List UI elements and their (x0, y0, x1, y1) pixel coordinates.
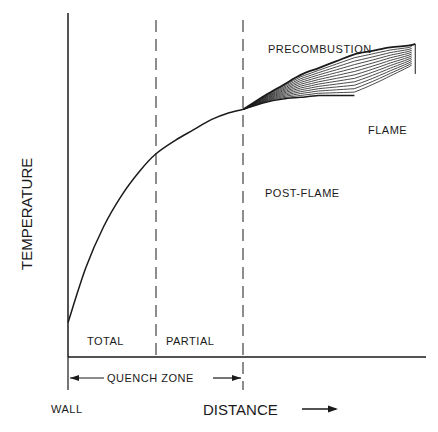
quench-zone-diagram: PRECOMBUSTION FLAME POST-FLAME TOTAL PAR… (0, 0, 438, 432)
y-axis-label: TEMPERATURE (18, 158, 35, 270)
zone-label-total: TOTAL (87, 335, 124, 347)
distance-arrow-head (328, 406, 338, 413)
region-label-flame: FLAME (368, 124, 407, 136)
quench-arrow-left-head (70, 375, 79, 381)
zone-label-partial: PARTIAL (166, 335, 214, 347)
x-axis-label: DISTANCE (203, 401, 278, 418)
region-label-precombustion: PRECOMBUSTION (268, 43, 372, 55)
quench-arrow-right-head (232, 375, 241, 381)
quench-zone-label: QUENCH ZONE (107, 372, 194, 384)
region-label-post-flame: POST-FLAME (265, 187, 340, 199)
flame-hatch-line (243, 65, 411, 109)
wall-label: WALL (51, 403, 83, 415)
